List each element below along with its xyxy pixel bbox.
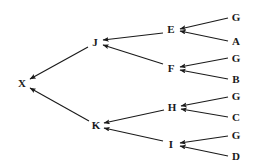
tree-edge-f-to-j — [103, 45, 163, 64]
tree-edge-l2-to-e — [180, 31, 228, 41]
tree-edge-l7-to-i — [180, 136, 228, 143]
tree-node-i: I — [169, 139, 173, 150]
tree-edge-l5-to-h — [181, 97, 228, 106]
tree-node-l1: G — [232, 12, 241, 23]
tree-node-l6: C — [232, 112, 240, 123]
tree-edge-l6-to-h — [181, 109, 228, 117]
tree-edge-e-to-j — [103, 33, 163, 40]
tree-edges-canvas — [0, 0, 253, 167]
tree-diagram: XJKEFHIGAGBGCGD — [0, 0, 253, 167]
tree-edge-l1-to-e — [180, 18, 228, 29]
tree-node-h: H — [168, 102, 177, 113]
tree-node-f: F — [168, 63, 175, 74]
tree-node-l4: B — [232, 74, 239, 85]
tree-node-l5: G — [232, 91, 241, 102]
tree-edge-j-to-x — [30, 47, 88, 79]
tree-node-l7: G — [232, 130, 241, 141]
tree-node-j: J — [92, 37, 98, 48]
tree-edge-i-to-k — [104, 128, 163, 141]
tree-node-l3: G — [232, 53, 241, 64]
tree-node-e: E — [167, 24, 174, 35]
tree-node-k: K — [92, 120, 101, 131]
tree-edge-l4-to-f — [180, 70, 228, 79]
tree-edge-l8-to-i — [180, 146, 228, 156]
tree-node-l8: D — [232, 151, 240, 162]
tree-edge-k-to-x — [30, 88, 89, 121]
edge-group — [30, 18, 228, 156]
tree-node-x: X — [18, 78, 26, 89]
tree-edge-l3-to-f — [180, 58, 228, 67]
tree-edge-h-to-k — [104, 110, 164, 123]
tree-node-l2: A — [232, 36, 240, 47]
